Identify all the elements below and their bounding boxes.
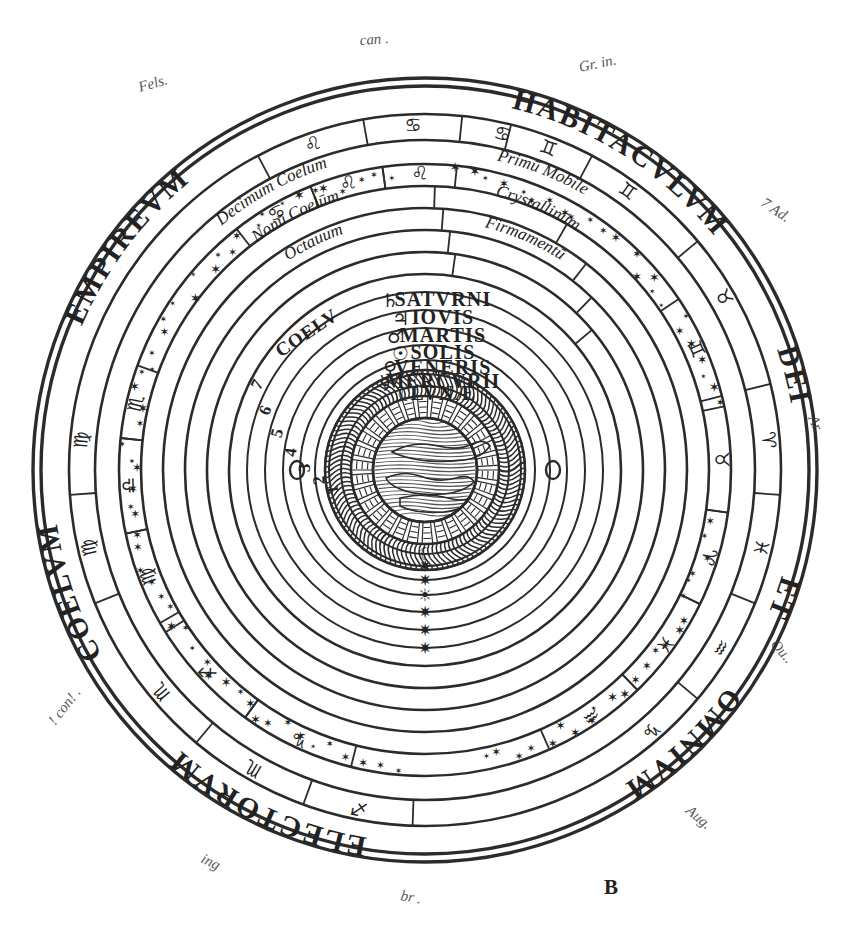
zodiac-inner-sign-2: ♌ (411, 161, 428, 183)
marginalia-note-8: ing (199, 850, 224, 873)
marginalia-note-2: Gr. in. (577, 51, 617, 75)
epicycle-marker-1 (546, 461, 560, 479)
air-hatch (410, 531, 417, 532)
air-hatch (490, 485, 492, 493)
zodiac-inner-sign-10: ♈ (696, 546, 722, 569)
water-hatch (377, 454, 473, 457)
star: ✶ (189, 643, 196, 653)
star: ✶ (526, 742, 535, 755)
star: ✶ (632, 270, 642, 284)
cosmos-diagram: EMPIREVM HABITACVLVM DEI ET OMNIVM ELECT… (0, 0, 859, 939)
zodiac-inner-sign-5: ♏ (122, 392, 147, 414)
air-hatch (387, 423, 392, 427)
band-divider (452, 254, 455, 276)
air-hatch (380, 414, 386, 419)
air-hatch (472, 420, 477, 426)
air-hatch (432, 413, 439, 414)
star: ✶ (214, 250, 221, 260)
zodiac-outer-sign-1: ♋ (404, 113, 422, 136)
star: ✶ (632, 247, 642, 261)
star: ✶ (607, 689, 618, 705)
star: ✶ (611, 230, 622, 245)
air-hatch (461, 517, 467, 521)
air-hatch (458, 513, 463, 517)
air-hatch (406, 408, 413, 410)
air-hatch (394, 412, 401, 415)
air-hatch (369, 451, 371, 457)
air-hatch (364, 449, 366, 456)
water-hatch (375, 472, 475, 475)
air-hatch (438, 535, 446, 537)
air-hatch (375, 498, 378, 504)
air-hatch (384, 418, 390, 422)
zodiac-outer-sign-14: ♊ (537, 134, 561, 161)
star: ✶ (259, 210, 266, 219)
star: ✶ (326, 738, 334, 749)
star: ✶ (283, 716, 292, 728)
air-hatch (451, 530, 458, 533)
air-hatch (408, 413, 414, 415)
marginalia-note-5: Qu.. (768, 636, 797, 666)
marginalia-note-7: ! con! . (45, 684, 84, 728)
star: ✶ (649, 270, 660, 285)
inscription-omnium: OMNIVM (619, 683, 748, 807)
air-hatch (365, 503, 369, 510)
air-hatch (412, 526, 419, 527)
star: ✶ (232, 229, 242, 243)
inscription-dei: DEI (771, 342, 817, 408)
cosmos-svg: EMPIREVM HABITACVLVM DEI ET OMNIVM ELECT… (0, 0, 859, 939)
air-hatch (447, 405, 454, 408)
air-hatch (472, 437, 475, 443)
water-hatch (378, 487, 471, 490)
planetary-sphere-labels: SATVRNI♄IOVIS♃MARTIS♂SOLIS☉VENERIS♀MERCV… (271, 288, 500, 405)
star: ✶ (388, 173, 395, 183)
air-hatch (370, 423, 375, 429)
band-divider (556, 224, 567, 243)
star: ✶ (642, 659, 652, 673)
star: ✶ (160, 314, 167, 324)
star: ✶ (160, 325, 170, 339)
star: ✶ (133, 540, 143, 554)
sphere-numeral-7: 7 (247, 376, 268, 393)
star: ✶ (237, 687, 245, 697)
zodiac-outer-sign-9: ♒ (707, 635, 735, 661)
zodiac-outer-sign-3: ♍ (76, 537, 101, 559)
sphere-numeral-6: 6 (255, 403, 276, 418)
star: ✶ (482, 174, 489, 183)
zodiac-outer-sign-0: ♌ (301, 130, 324, 156)
water-hatch (375, 465, 475, 468)
air-hatch (381, 507, 386, 512)
marginalia-note-3: 7 Ad. (758, 194, 793, 225)
air-hatch (400, 522, 406, 524)
star: ✶ (210, 261, 222, 277)
marginalia-note-9: br . (399, 887, 422, 906)
water-hatch (376, 461, 475, 464)
air-hatch (479, 483, 481, 489)
water-hatch (390, 432, 459, 435)
zodiac-inner-sign-4: ♎ (116, 476, 139, 494)
air-hatch (370, 500, 374, 506)
zodiac-outer-sign-2: ♋ (492, 121, 514, 146)
air-hatch (475, 511, 480, 517)
star: ✶ (705, 515, 714, 528)
air-hatch (390, 516, 395, 520)
air-hatch (464, 522, 470, 527)
sphere-marker-satvrni: ✷ (418, 638, 432, 658)
air-hatch (373, 515, 378, 521)
zodiac-outer-sign-13: ♊ (615, 177, 642, 205)
air-hatch (492, 457, 493, 465)
air-hatch (481, 459, 482, 466)
air-hatch (377, 511, 382, 516)
air-hatch (392, 407, 399, 410)
air-hatch (362, 462, 363, 469)
star: ✶ (182, 622, 190, 633)
air-hatch (363, 434, 367, 441)
water-hatch (395, 428, 456, 431)
marginalia-note-1: Fels. (135, 71, 169, 95)
star: ✶ (686, 576, 692, 585)
water-hatch (387, 435, 463, 438)
water-hatch (407, 421, 443, 424)
air-hatch (457, 416, 463, 420)
air-hatch (436, 525, 442, 527)
zodiac-outer-glyphs: ♌♋♋♍♍♏♏♐♑♒♓♈♉♊♊ (69, 113, 781, 821)
